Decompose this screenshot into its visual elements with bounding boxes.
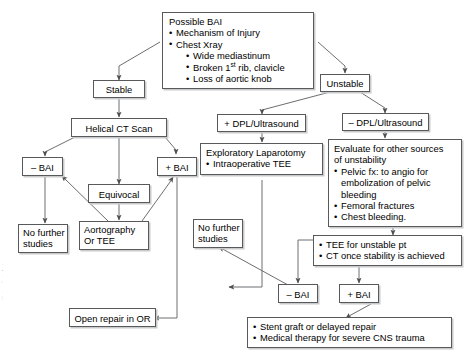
exploratory-lap-bullets: Intraoperative TEE xyxy=(206,158,318,169)
node-equivocal: Equivocal xyxy=(88,184,150,203)
node-no-further-studies-middle: No further studies xyxy=(193,219,243,248)
no-further-studies-mid-line1: No further xyxy=(198,222,239,233)
list-item: Chest Xray xyxy=(169,39,308,50)
node-bai-negative-left: – BAI xyxy=(22,157,63,176)
scan-margin-artifact: · • · : · | xyxy=(1,262,10,348)
list-item: Femoral fractures xyxy=(334,200,457,211)
rib-pre: Broken 1 xyxy=(193,62,231,73)
no-further-studies-mid-line2: studies xyxy=(198,233,239,244)
node-aortography-or-tee: Aortography Or TEE xyxy=(79,221,149,250)
evaluate-bullets: Pelvic fx: to angio for embolization of … xyxy=(334,166,457,223)
list-item: Chest bleeding. xyxy=(334,211,457,222)
no-further-studies-left-line2: studies xyxy=(23,238,64,249)
node-treatment-options: Stent graft or delayed repair Medical th… xyxy=(247,317,452,348)
node-tee-ct-unstable: TEE for unstable pt CT once stability is… xyxy=(313,235,462,266)
node-open-repair-in-or: Open repair in OR xyxy=(69,308,156,327)
evaluate-heading-line2: of unstability xyxy=(334,154,457,165)
flowchart-canvas: Possible BAI Mechanism of Injury Chest X… xyxy=(0,0,467,357)
exploratory-lap-heading: Exploratory Laparotomy xyxy=(206,147,318,158)
node-unstable: Unstable xyxy=(320,74,370,92)
node-bai-positive-left: + BAI xyxy=(157,157,197,176)
evaluate-heading-line1: Evaluate for other sources xyxy=(334,143,457,154)
list-item: Wide mediastinum xyxy=(186,50,308,61)
no-further-studies-left-line1: No further xyxy=(23,227,64,238)
node-bai-negative-bottom: – BAI xyxy=(278,284,318,303)
list-item: Medical therapy for severe CNS trauma xyxy=(253,332,447,343)
list-item: Stent graft or delayed repair xyxy=(253,321,447,332)
node-bai-positive-bottom: + BAI xyxy=(339,284,379,303)
list-item: Mechanism of Injury xyxy=(169,27,308,38)
list-item: Loss of aortic knob xyxy=(186,73,308,84)
list-item: TEE for unstable pt xyxy=(319,239,457,250)
rib-post: rib, clavicle xyxy=(236,62,285,73)
node-evaluate-unstability: Evaluate for other sources of unstabilit… xyxy=(328,139,462,227)
possible-bai-heading: Possible BAI xyxy=(169,16,308,27)
node-dpl-ultrasound-negative: – DPL/Ultrasound xyxy=(342,113,429,131)
node-dpl-ultrasound-positive: + DPL/Ultrasound xyxy=(217,114,306,132)
node-exploratory-laparotomy: Exploratory Laparotomy Intraoperative TE… xyxy=(200,143,323,175)
list-item: Broken 1st rib, clavicle xyxy=(186,62,308,73)
aortography-line2: Or TEE xyxy=(84,235,145,246)
list-item: CT once stability is achieved xyxy=(319,250,457,261)
node-helical-ct-scan: Helical CT Scan xyxy=(71,118,167,137)
possible-bai-bullets: Mechanism of Injury Chest Xray xyxy=(169,27,308,50)
treatment-bullets: Stent graft or delayed repair Medical th… xyxy=(253,321,447,344)
aortography-line1: Aortography xyxy=(84,224,145,235)
list-item: Intraoperative TEE xyxy=(206,158,318,169)
node-possible-bai: Possible BAI Mechanism of Injury Chest X… xyxy=(162,12,314,89)
node-no-further-studies-left: No further studies xyxy=(18,224,68,253)
tee-ct-bullets: TEE for unstable pt CT once stability is… xyxy=(319,239,457,262)
list-item: Pelvic fx: to angio for embolization of … xyxy=(334,166,457,200)
possible-bai-subbullets: Wide mediastinum Broken 1st rib, clavicl… xyxy=(186,50,308,84)
node-stable: Stable xyxy=(93,80,145,98)
